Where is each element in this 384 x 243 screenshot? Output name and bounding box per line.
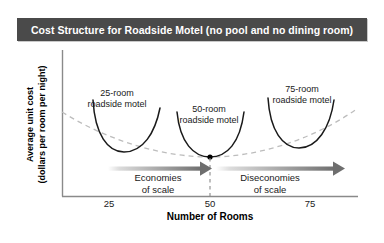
x-axis-title: Number of Rooms	[112, 211, 308, 222]
curve-label-25-room: 25-room roadside motel	[70, 88, 164, 110]
curve-label-75-room: 75-room roadside motel	[255, 84, 349, 106]
curve-label-75-room-line2: roadside motel	[255, 95, 349, 106]
x-tick-label-75: 75	[295, 198, 325, 209]
curve-label-25-room-line2: roadside motel	[70, 99, 164, 110]
diseconomies-of-scale-label-line2: of scale	[224, 184, 316, 196]
economies-of-scale-label-line1: Economies	[118, 172, 198, 184]
diseconomies-of-scale-label: Diseconomies of scale	[224, 172, 316, 195]
curve-label-25-room-line1: 25-room	[70, 88, 164, 99]
x-tick-label-25: 25	[94, 198, 124, 209]
curve-label-50-room-line2: roadside motel	[161, 115, 257, 126]
curve-label-50-room-line1: 50-room	[161, 104, 257, 115]
economies-of-scale-label: Economies of scale	[118, 172, 198, 195]
curve-label-50-room: 50-room roadside motel	[161, 104, 257, 126]
x-tick-label-50: 50	[195, 198, 225, 209]
curve-label-75-room-line1: 75-room	[255, 84, 349, 95]
economies-of-scale-label-line2: of scale	[118, 184, 198, 196]
figure-container: Cost Structure for Roadside Motel (no po…	[0, 0, 384, 243]
diseconomies-of-scale-label-line1: Diseconomies	[224, 172, 316, 184]
